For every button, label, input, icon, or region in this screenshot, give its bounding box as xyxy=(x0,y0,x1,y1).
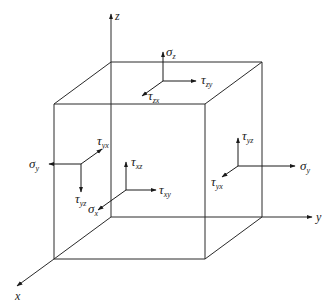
right-face-stresses xyxy=(222,138,295,177)
tau-yx-left-arrow xyxy=(81,149,102,164)
sigma-y-left-label: σy xyxy=(29,156,39,173)
sigma-y-right-label: σy xyxy=(300,158,310,175)
cube-edge xyxy=(205,62,262,104)
front-face-stresses xyxy=(98,162,156,210)
sigma-z-label: σz xyxy=(166,44,176,61)
cube-edge xyxy=(205,217,262,259)
sigma-x-arrow xyxy=(98,190,126,210)
y-axis-label: y xyxy=(315,210,322,224)
tau-zx-label: τzx xyxy=(148,88,160,105)
tau-yz-right-label: τyz xyxy=(242,128,254,145)
axes xyxy=(17,14,312,286)
z-axis-label: z xyxy=(114,9,120,23)
tau-zy-label: τzy xyxy=(201,72,213,89)
x-axis-label: x xyxy=(14,289,21,303)
left-face-stresses xyxy=(49,149,102,192)
sigma-x-label: σx xyxy=(88,201,98,218)
tau-yx-right-label: τyx xyxy=(211,174,223,191)
stress-element-diagram: z y x σz τzy τzx σy τyx τyz τxz τxy σx τ… xyxy=(0,0,336,308)
tau-yx-left-label: τyx xyxy=(97,133,109,150)
tau-xy-label: τxy xyxy=(159,182,171,199)
cube-edge xyxy=(54,62,111,104)
cube-edge xyxy=(54,217,111,259)
x-axis xyxy=(17,259,54,286)
tau-yx-right-arrow xyxy=(222,166,238,177)
tau-yz-left-label: τyz xyxy=(75,191,87,208)
diagram-canvas: z y x σz τzy τzx σy τyx τyz τxz τxy σx τ… xyxy=(0,0,336,308)
tau-xz-label: τxz xyxy=(131,154,143,171)
